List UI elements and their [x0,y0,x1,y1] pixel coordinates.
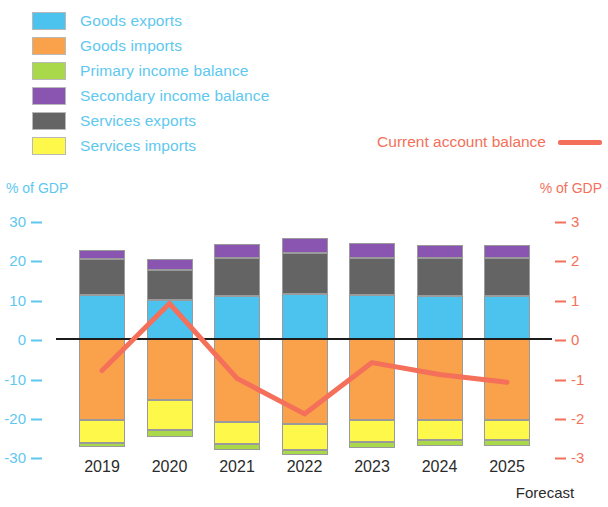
bar-segment-goods_imports-2025 [484,339,530,420]
bar-segment-services_imports-2020 [147,400,193,430]
left-tick-10: 10 [0,293,42,308]
chart-container: Goods exports Goods imports Primary inco… [0,0,608,507]
x-axis-label-2020: 2020 [135,458,205,476]
right-tick-3: 3 [555,214,605,229]
x-axis-label-2024: 2024 [405,458,475,476]
bar-segment-services_imports-2023 [349,420,395,442]
bar-segment-primary_income-2024 [417,440,463,446]
bar-segment-primary_income-2025 [484,440,530,446]
zero-baseline [56,338,552,340]
forecast-note: Forecast [500,484,590,501]
bar-segment-services_imports-2024 [417,420,463,440]
left-tick-20: 20 [0,253,42,268]
bar-segment-secondary_income-2024 [417,245,463,258]
bar-segment-goods_exports-2021 [214,296,260,339]
left-tick--30: -30 [0,450,42,465]
bar-segment-goods_imports-2023 [349,339,395,420]
bar-segment-goods_imports-2021 [214,339,260,422]
x-axis-label-2023: 2023 [337,458,407,476]
left-tick-0: 0 [0,332,42,347]
bar-segment-services_exports-2025 [484,258,530,296]
bar-segment-goods_exports-2024 [417,296,463,339]
bar-segment-secondary_income-2020 [147,259,193,270]
bar-segment-primary_income-2019 [79,443,125,447]
right-tick-2: 2 [555,253,605,268]
bar-segment-services_exports-2021 [214,258,260,296]
bar-segment-secondary_income-2023 [349,243,395,258]
plot-area: 30 20 10 0 -10 -20 -30 3 2 1 0 -1 -2 -3 … [0,0,608,507]
x-axis-label-2021: 2021 [202,458,272,476]
bar-segment-goods_exports-2019 [79,295,125,339]
right-tick--2: -2 [555,411,605,426]
left-tick--10: -10 [0,372,42,387]
bar-segment-primary_income-2020 [147,430,193,437]
x-axis-label-2025: 2025 [472,458,542,476]
left-tick-30: 30 [0,214,42,229]
bar-segment-secondary_income-2025 [484,245,530,258]
bar-segment-primary_income-2023 [349,442,395,448]
bar-segment-services_exports-2024 [417,258,463,296]
x-axis-label-2019: 2019 [67,458,137,476]
bar-segment-services_exports-2020 [147,270,193,300]
right-tick--1: -1 [555,372,605,387]
bar-segment-secondary_income-2022 [282,238,328,253]
bar-segment-services_exports-2022 [282,253,328,294]
bar-segment-primary_income-2022 [282,450,328,455]
right-tick-0: 0 [555,332,605,347]
bar-segment-services_imports-2019 [79,420,125,443]
x-axis-label-2022: 2022 [270,458,340,476]
bar-segment-secondary_income-2019 [79,250,125,259]
bar-segment-services_exports-2019 [79,259,125,295]
bar-segment-primary_income-2021 [214,444,260,450]
bar-segment-goods_exports-2025 [484,296,530,339]
bar-segment-services_imports-2021 [214,422,260,444]
bar-segment-services_imports-2022 [282,424,328,450]
right-tick--3: -3 [555,450,605,465]
bar-segment-services_imports-2025 [484,420,530,440]
bar-segment-goods_imports-2022 [282,339,328,424]
bar-segment-goods_imports-2020 [147,339,193,400]
bar-segment-secondary_income-2021 [214,244,260,258]
bar-segment-goods_imports-2019 [79,339,125,420]
bar-segment-goods_imports-2024 [417,339,463,420]
bar-segment-goods_exports-2022 [282,294,328,339]
bar-segment-goods_exports-2020 [147,300,193,339]
bar-segment-goods_exports-2023 [349,295,395,339]
right-tick-1: 1 [555,293,605,308]
bar-segment-services_exports-2023 [349,258,395,295]
left-tick--20: -20 [0,411,42,426]
